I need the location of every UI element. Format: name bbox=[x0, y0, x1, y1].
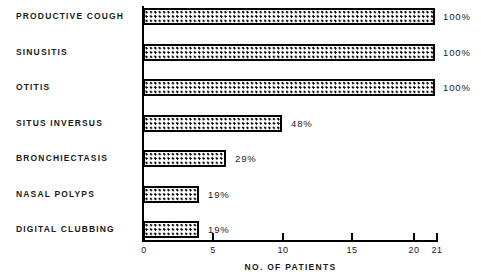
x-tick-label-20: 20 bbox=[409, 245, 420, 255]
category-label-bronchiectasis: BRONCHIECTASIS bbox=[16, 152, 108, 163]
category-label-situs-inversus: SITUS INVERSUS bbox=[16, 117, 103, 128]
x-tick-21 bbox=[436, 233, 438, 241]
category-label-otitis: OTITIS bbox=[16, 81, 50, 92]
x-tick-label-15: 15 bbox=[347, 245, 358, 255]
x-tick-label-10: 10 bbox=[278, 245, 289, 255]
bar-sinusitis bbox=[143, 44, 435, 61]
x-axis-title: NO. OF PATIENTS bbox=[0, 262, 481, 272]
bar-otitis bbox=[143, 79, 435, 96]
bar-bronchiectasis bbox=[143, 150, 226, 167]
category-label-nasal-polyps: NASAL POLYPS bbox=[16, 188, 95, 199]
bar-digital-clubbing bbox=[143, 221, 199, 238]
category-label-productive-cough: PRODUCTIVE COUGH bbox=[16, 10, 124, 21]
data-label-nasal-polyps: 19% bbox=[208, 186, 230, 203]
x-tick-10 bbox=[282, 233, 284, 241]
x-tick-label-21: 21 bbox=[432, 245, 443, 255]
bar-situs-inversus bbox=[143, 115, 282, 132]
bar-productive-cough bbox=[143, 8, 435, 25]
bar-nasal-polyps bbox=[143, 186, 199, 203]
data-label-otitis: 100% bbox=[443, 79, 471, 96]
x-axis-line bbox=[142, 240, 438, 242]
data-label-productive-cough: 100% bbox=[443, 8, 471, 25]
data-label-situs-inversus: 48% bbox=[291, 115, 313, 132]
x-tick-20 bbox=[413, 233, 415, 241]
x-tick-label-5: 5 bbox=[210, 245, 215, 255]
data-label-sinusitis: 100% bbox=[443, 44, 471, 61]
data-label-digital-clubbing: 19% bbox=[208, 221, 230, 238]
x-tick-15 bbox=[351, 233, 353, 241]
x-tick-label-0: 0 bbox=[141, 245, 146, 255]
category-label-sinusitis: SINUSITIS bbox=[16, 46, 68, 57]
data-label-bronchiectasis: 29% bbox=[235, 150, 257, 167]
bar-chart: PRODUCTIVE COUGH SINUSITIS OTITIS SITUS … bbox=[0, 0, 481, 280]
category-label-digital-clubbing: DIGITAL CLUBBING bbox=[16, 223, 115, 234]
